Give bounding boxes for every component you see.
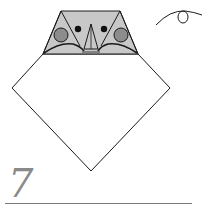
turn-over-arrow-icon — [156, 11, 202, 25]
right-eye — [101, 26, 107, 32]
left-eye — [75, 26, 81, 32]
left-cheek — [54, 28, 68, 42]
step-divider-rule — [5, 203, 192, 204]
step-number: 7 — [8, 163, 33, 203]
right-cheek — [114, 28, 128, 42]
body-diamond — [12, 54, 170, 171]
origami-diagram-page: 7 — [0, 0, 204, 214]
